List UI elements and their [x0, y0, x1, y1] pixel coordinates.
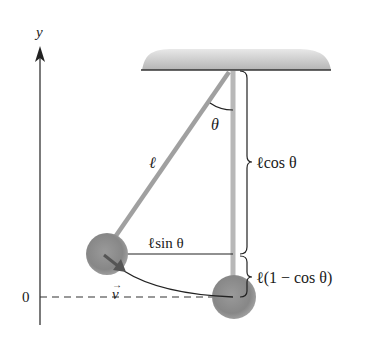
horizontal-distance-label: ℓsin θ	[148, 235, 184, 251]
displaced-rod	[113, 72, 229, 240]
angle-arc	[210, 103, 233, 110]
length-label: ℓ	[149, 154, 156, 171]
ceiling	[141, 49, 331, 70]
rest-bob	[212, 275, 256, 319]
vertical-bottom-label: ℓ(1 − cos θ)	[256, 269, 332, 287]
y-axis	[35, 46, 45, 325]
y-axis-label: y	[34, 24, 43, 40]
pendulum-diagram: y 0 θ ℓ ℓsin θ v → ℓcos θ ℓ(1 − cos θ)	[0, 0, 383, 342]
brace-cos	[240, 71, 252, 254]
angle-label: θ	[211, 116, 219, 133]
velocity-vector-mark: →	[112, 279, 122, 290]
origin-label: 0	[22, 289, 30, 305]
vertical-top-label: ℓcos θ	[256, 154, 297, 171]
